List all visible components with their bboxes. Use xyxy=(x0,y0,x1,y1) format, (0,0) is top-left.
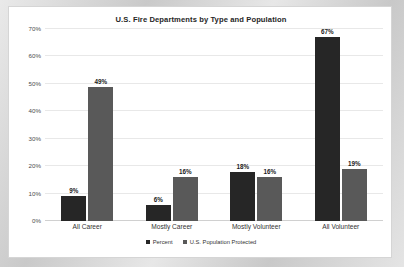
bar-value-label: 67% xyxy=(321,28,334,35)
bar[interactable]: 16% xyxy=(257,177,282,221)
category-label: Mostly Career xyxy=(130,223,215,230)
bar-group: 9%49% xyxy=(45,29,130,221)
y-axis-tick-label: 10% xyxy=(29,189,41,196)
bar[interactable]: 49% xyxy=(88,87,113,221)
bar[interactable]: 6% xyxy=(146,205,171,221)
bar-groups: 9%49%6%16%18%16%67%19% xyxy=(45,29,383,221)
chart-title: U.S. Fire Departments by Type and Popula… xyxy=(9,15,393,24)
bar-group: 18%16% xyxy=(214,29,299,221)
legend-item[interactable]: U.S. Population Protected xyxy=(183,239,257,245)
bar-value-label: 18% xyxy=(236,163,249,170)
legend-item[interactable]: Percent xyxy=(146,239,173,245)
bar-value-label: 6% xyxy=(154,196,163,203)
bar-value-label: 19% xyxy=(348,160,361,167)
y-axis-tick-label: 30% xyxy=(29,134,41,141)
bar[interactable]: 67% xyxy=(315,37,340,221)
plot-area: 0%10%20%30%40%50%60%70% 9%49%6%16%18%16%… xyxy=(45,29,383,221)
category-label: Mostly Volunteer xyxy=(214,223,299,230)
y-axis-tick-label: 70% xyxy=(29,25,41,32)
bar-fill xyxy=(342,169,367,221)
y-axis-tick-label: 40% xyxy=(29,107,41,114)
legend-label: Percent xyxy=(153,239,173,245)
y-axis-tick-label: 0% xyxy=(32,217,41,224)
bar-value-label: 49% xyxy=(94,78,107,85)
legend-swatch-icon xyxy=(146,240,151,245)
chart-legend: PercentU.S. Population Protected xyxy=(9,239,393,245)
bar-fill xyxy=(173,177,198,221)
bar-fill xyxy=(88,87,113,221)
bar[interactable]: 16% xyxy=(173,177,198,221)
bar-value-label: 16% xyxy=(179,168,192,175)
category-label: All Volunteer xyxy=(299,223,384,230)
bar-fill xyxy=(230,172,255,221)
bar-fill xyxy=(257,177,282,221)
bar[interactable]: 9% xyxy=(61,196,86,221)
category-axis: All CareerMostly CareerMostly VolunteerA… xyxy=(45,223,383,230)
chart-card: U.S. Fire Departments by Type and Popula… xyxy=(8,6,392,258)
y-axis-tick-label: 50% xyxy=(29,79,41,86)
y-axis-tick-label: 60% xyxy=(29,52,41,59)
bar-group: 6%16% xyxy=(130,29,215,221)
bar-fill xyxy=(61,196,86,221)
legend-swatch-icon xyxy=(183,240,188,245)
legend-label: U.S. Population Protected xyxy=(190,239,257,245)
bar-value-label: 9% xyxy=(69,187,78,194)
bar[interactable]: 19% xyxy=(342,169,367,221)
bar[interactable]: 18% xyxy=(230,172,255,221)
bar-fill xyxy=(315,37,340,221)
bar-value-label: 16% xyxy=(263,168,276,175)
bar-fill xyxy=(146,205,171,221)
category-label: All Career xyxy=(45,223,130,230)
y-axis-tick-label: 20% xyxy=(29,162,41,169)
bar-group: 67%19% xyxy=(299,29,384,221)
